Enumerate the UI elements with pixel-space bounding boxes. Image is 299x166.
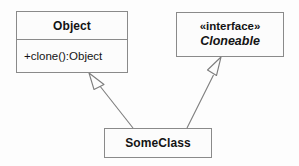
class-name-compartment-object: Object (17, 12, 127, 39)
interface-name-cloneable: Cloneable (200, 34, 260, 49)
class-operations-compartment-object: +clone():Object (17, 39, 127, 72)
hollow-triangle-arrowhead-cloneable (208, 57, 222, 76)
class-box-cloneable[interactable]: «interface» Cloneable (176, 12, 284, 57)
class-box-object[interactable]: Object +clone():Object (16, 11, 128, 73)
class-box-someclass[interactable]: SomeClass (104, 128, 212, 158)
generalization-someclass-object (89, 73, 133, 128)
class-name-compartment-someclass: SomeClass (105, 129, 211, 157)
uml-class-diagram: Object +clone():Object «interface» Clone… (0, 0, 299, 166)
class-name-object: Object (53, 19, 91, 33)
generalization-line-object (100, 86, 134, 129)
realization-someclass-cloneable (187, 57, 221, 128)
realization-line-cloneable (187, 75, 214, 128)
hollow-triangle-arrowhead-object (89, 73, 104, 90)
class-name-someclass: SomeClass (125, 136, 191, 150)
interface-name-compartment-cloneable: «interface» Cloneable (177, 13, 283, 56)
stereotype-interface: «interface» (200, 20, 261, 34)
operation-clone: +clone():Object (24, 50, 102, 62)
